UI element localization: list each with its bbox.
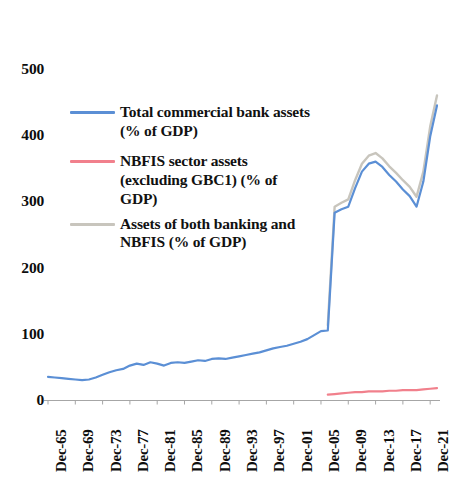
legend-swatch-icon — [70, 223, 115, 226]
x-axis-tick-label: Dec-09 — [354, 430, 369, 472]
chart-legend: Total commercial bank assets (% of GDP)N… — [70, 103, 310, 263]
x-axis-tick-label: Dec-69 — [81, 430, 96, 472]
x-axis-tick-label: Dec-89 — [218, 430, 233, 472]
legend-item-nbfis-sector-assets[interactable]: NBFIS sector assets (excluding GBC1) (% … — [70, 152, 310, 209]
x-axis-tick-label: Dec-81 — [163, 430, 178, 472]
x-axis-tick-label: Dec-73 — [109, 430, 124, 472]
x-axis-tick-label: Dec-21 — [436, 430, 451, 472]
x-axis-tick-label: Dec-97 — [272, 430, 287, 472]
legend-label: Total commercial bank assets (% of GDP) — [120, 103, 310, 141]
x-axis-tick-label: Dec-17 — [409, 430, 424, 472]
x-axis-tick-label: Dec-77 — [136, 430, 151, 472]
legend-label: Assets of both banking and NBFIS (% of G… — [120, 215, 310, 253]
legend-label: NBFIS sector assets (excluding GBC1) (% … — [120, 152, 310, 209]
x-axis-tick-label: Dec-05 — [327, 430, 342, 472]
x-axis-tick-label: Dec-01 — [300, 430, 315, 472]
legend-item-total-commercial-bank-assets[interactable]: Total commercial bank assets (% of GDP) — [70, 103, 310, 141]
legend-swatch-icon — [70, 160, 115, 163]
x-axis-tick-label: Dec-65 — [54, 430, 69, 472]
legend-item-assets-of-both-banking-and-nbfis[interactable]: Assets of both banking and NBFIS (% of G… — [70, 215, 310, 253]
legend-swatch-icon — [70, 111, 115, 114]
x-axis-tick-label: Dec-13 — [382, 430, 397, 472]
x-axis-tick-label: Dec-93 — [245, 430, 260, 472]
x-axis-tick-label: Dec-85 — [190, 430, 205, 472]
